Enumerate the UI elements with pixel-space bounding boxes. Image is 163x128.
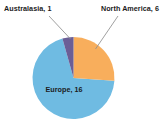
pie-chart-figure: Australasia, 1 North America, 6 Europe, … (0, 0, 163, 128)
leader-line-north-america (96, 16, 119, 49)
pie-slices-group (33, 37, 115, 119)
label-europe: Europe, 16 (45, 85, 82, 94)
leader-line-australasia (49, 16, 71, 39)
pie-chart-canvas: Australasia, 1 North America, 6 Europe, … (0, 0, 163, 128)
label-north-america: North America, 6 (101, 4, 159, 13)
label-australasia: Australasia, 1 (4, 4, 51, 13)
pie-slice-north-america[interactable] (74, 37, 115, 81)
